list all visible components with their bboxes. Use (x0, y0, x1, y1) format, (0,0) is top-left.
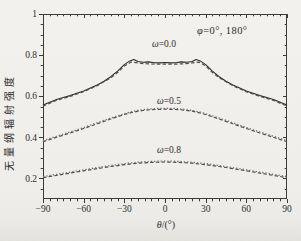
curve-omega-0.5-dotted (43, 108, 287, 140)
series-label-omega-0.0: ω=0.0 (139, 39, 189, 49)
series-label-value: =0.0 (159, 39, 176, 49)
svg-text:−30: −30 (117, 204, 132, 214)
radiation-intensity-chart: −90−60−3003060900.20.40.60.81 (0, 0, 301, 241)
svg-text:30: 30 (201, 204, 211, 214)
curve-omega-0.8-dashed (43, 162, 287, 178)
x-axis-label-units: /(°) (162, 219, 175, 230)
series-label-omega-0.8: ω=0.8 (144, 145, 194, 155)
svg-text:0: 0 (163, 204, 168, 214)
svg-text:0.2: 0.2 (25, 174, 37, 184)
curve-omega-0.5-dashed (43, 109, 287, 142)
series-label-value: =0.8 (164, 145, 181, 155)
omega-symbol: ω (152, 39, 159, 49)
omega-symbol: ω (157, 145, 164, 155)
x-axis-label: θ/(°) (136, 219, 196, 230)
series-label-omega-0.5: ω=0.5 (144, 96, 194, 106)
curve-omega-0.8-dotted (43, 161, 287, 177)
svg-text:90: 90 (282, 204, 292, 214)
svg-text:−90: −90 (36, 204, 51, 214)
svg-text:60: 60 (242, 204, 252, 214)
omega-symbol: ω (157, 96, 164, 106)
svg-text:0.6: 0.6 (25, 91, 37, 101)
phi-annotation-text: =0°, 180° (203, 25, 247, 36)
scanned-figure: −90−60−3003060900.20.40.60.81 无量纲辐射强度 θ/… (0, 0, 301, 241)
svg-text:1: 1 (32, 9, 37, 19)
series-label-value: =0.5 (164, 96, 181, 106)
svg-text:−60: −60 (76, 204, 91, 214)
phi-annotation: φ=0°, 180° (197, 25, 277, 36)
y-axis-label: 无量纲辐射强度 (1, 62, 17, 182)
svg-text:0.4: 0.4 (25, 133, 37, 143)
svg-text:0.8: 0.8 (25, 50, 37, 60)
